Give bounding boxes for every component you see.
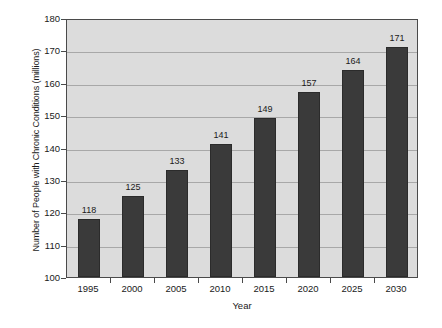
bar[interactable]: [78, 219, 100, 277]
bar-slot: 118: [67, 20, 111, 277]
y-axis-tick-label: 100: [20, 273, 60, 283]
bar[interactable]: [166, 170, 188, 277]
y-axis-tick-mark: [61, 278, 66, 279]
y-axis-tick-label: 160: [20, 79, 60, 89]
bar-value-label: 164: [345, 56, 360, 67]
bar-slot: 125: [111, 20, 155, 277]
bar-value-label: 157: [301, 78, 316, 89]
y-axis-tick-label: 150: [20, 111, 60, 121]
y-axis-tick-label: 120: [20, 208, 60, 218]
bar-value-label: 171: [389, 33, 404, 44]
bar-value-label: 141: [213, 130, 228, 141]
bar-series: 118125133141149157164171: [67, 20, 417, 277]
bar-value-label: 118: [82, 205, 96, 216]
chart-figure: Number of People with Chronic Conditions…: [0, 0, 442, 328]
bar-slot: 164: [331, 20, 375, 277]
y-axis-tick-label: 170: [20, 46, 60, 56]
x-axis-title: Year: [66, 300, 418, 312]
x-axis-tick-label: 2030: [366, 283, 426, 294]
bar[interactable]: [298, 92, 320, 277]
bar-slot: 133: [155, 20, 199, 277]
bar[interactable]: [122, 196, 144, 277]
bar[interactable]: [342, 70, 364, 277]
bar-value-label: 125: [125, 182, 140, 193]
bar[interactable]: [386, 47, 408, 277]
y-axis-tick-label: 130: [20, 176, 60, 186]
bar[interactable]: [210, 144, 232, 277]
bar-value-label: 149: [257, 104, 272, 115]
bar-slot: 141: [199, 20, 243, 277]
bar-value-label: 133: [169, 156, 184, 167]
bar-slot: 149: [243, 20, 287, 277]
y-axis-tick-label: 140: [20, 144, 60, 154]
bar-slot: 171: [375, 20, 419, 277]
y-axis-tick-label: 180: [20, 14, 60, 24]
bar-slot: 157: [287, 20, 331, 277]
y-axis-tick-label: 110: [20, 241, 60, 251]
plot-area: 118125133141149157164171: [66, 19, 418, 278]
bar[interactable]: [254, 118, 276, 277]
